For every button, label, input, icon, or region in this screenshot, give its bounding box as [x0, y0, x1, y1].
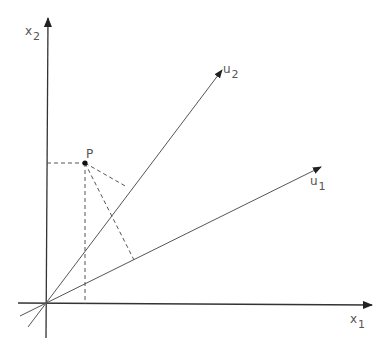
- projection-to-u2: [85, 163, 127, 187]
- x2-axis-label: x2: [25, 25, 39, 37]
- u2-vector-line: [28, 70, 222, 327]
- u1-label-main: u: [310, 174, 318, 188]
- u1-label-subscript: 1: [319, 180, 326, 193]
- point-p-text: P: [86, 147, 93, 161]
- u2-vector-label: u2: [223, 63, 238, 75]
- x1-axis: [18, 303, 372, 305]
- projection-diagram: [0, 0, 382, 355]
- u1-vector-label: u1: [310, 175, 325, 187]
- x2-label-subscript: 2: [33, 30, 40, 43]
- u1-vector-line: [20, 167, 321, 316]
- point-p-label: P: [86, 148, 93, 160]
- x2-label-main: x: [25, 24, 32, 38]
- point-p-marker: [82, 160, 87, 165]
- x1-label-subscript: 1: [358, 318, 365, 331]
- x1-label-main: x: [350, 312, 357, 326]
- u2-label-main: u: [223, 62, 231, 76]
- u2-label-subscript: 2: [232, 68, 239, 81]
- x1-axis-label: x1: [350, 313, 364, 325]
- x2-axis: [46, 18, 48, 338]
